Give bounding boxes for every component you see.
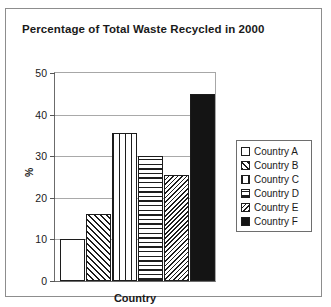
legend-label: Country C xyxy=(254,174,299,185)
bar-country-a xyxy=(60,239,85,281)
x-axis-label: Country xyxy=(54,292,216,304)
bar-country-e xyxy=(164,175,189,281)
bar-country-d xyxy=(138,156,163,281)
legend-item: Country A xyxy=(241,144,307,158)
legend-item: Country B xyxy=(241,158,307,172)
legend-swatch-icon xyxy=(241,161,250,170)
legend-item: Country E xyxy=(241,200,307,214)
y-axis-tick xyxy=(50,281,55,282)
chart-title: Percentage of Total Waste Recycled in 20… xyxy=(22,23,265,35)
legend-swatch-icon xyxy=(241,217,250,226)
legend-item: Country D xyxy=(241,186,307,200)
chart-legend: Country ACountry BCountry CCountry DCoun… xyxy=(236,140,312,232)
bar-country-f xyxy=(190,94,215,281)
y-axis-tick-label: 20 xyxy=(35,192,47,204)
plot-area: 01020304050 xyxy=(54,72,216,282)
legend-label: Country F xyxy=(254,216,298,227)
y-axis-tick xyxy=(50,73,55,74)
y-axis-tick xyxy=(50,115,55,116)
y-axis-tick-label: 10 xyxy=(35,233,47,245)
chart-figure: Percentage of Total Waste Recycled in 20… xyxy=(5,8,322,297)
legend-swatch-icon xyxy=(241,147,250,156)
y-axis-tick-label: 40 xyxy=(35,109,47,121)
legend-label: Country B xyxy=(254,160,298,171)
y-axis-tick xyxy=(50,156,55,157)
legend-item: Country F xyxy=(241,214,307,228)
y-axis-label: % xyxy=(23,168,35,177)
legend-label: Country A xyxy=(254,146,298,157)
y-axis-tick-label: 50 xyxy=(35,67,47,79)
y-axis-tick-label: 0 xyxy=(41,275,47,287)
bar-country-b xyxy=(86,214,111,281)
bar-country-c xyxy=(112,133,137,281)
legend-swatch-icon xyxy=(241,189,250,198)
legend-swatch-icon xyxy=(241,175,250,184)
legend-swatch-icon xyxy=(241,203,250,212)
legend-label: Country D xyxy=(254,188,299,199)
y-axis-tick xyxy=(50,239,55,240)
legend-item: Country C xyxy=(241,172,307,186)
legend-label: Country E xyxy=(254,202,298,213)
y-axis-tick-label: 30 xyxy=(35,150,47,162)
y-axis-tick xyxy=(50,198,55,199)
